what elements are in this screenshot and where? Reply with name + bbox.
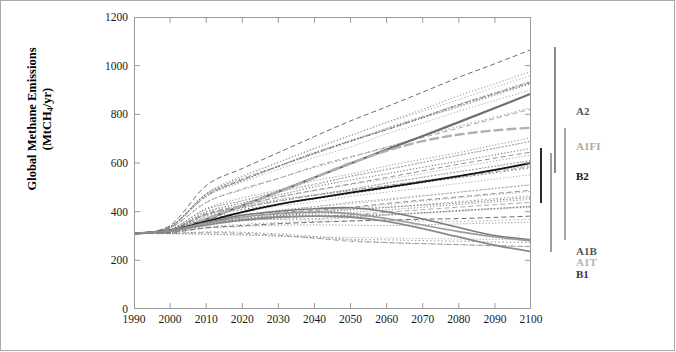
legend-range-bar-a1fi (564, 128, 566, 240)
legend-label-a1fi: A1FI (576, 140, 600, 152)
marker-scenario-line-a1fi (134, 128, 531, 234)
y-axis-label: Global Methane Emissions (MtCH4/yr) (25, 29, 69, 209)
x-axis-tick-labels: 1990200020102020203020402050206020702080… (134, 313, 531, 333)
y-tick-label: 200 (88, 254, 128, 266)
marker-scenario-lines (134, 94, 531, 252)
figure-frame: Global Methane Emissions (MtCH4/yr) 0200… (0, 0, 675, 351)
y-axis-label-line2: (MtCH4/yr) (40, 29, 58, 209)
legend-label-b2: B2 (576, 170, 589, 182)
plot-area (134, 17, 531, 309)
line-chart-svg (134, 17, 531, 309)
legend-label-a1t: A1T (576, 256, 597, 268)
scenario-envelope-lines (134, 50, 531, 247)
legend-range-bar-a2 (554, 47, 556, 172)
y-tick-label: 600 (88, 157, 128, 169)
x-tick-label: 2100 (510, 313, 552, 325)
y-axis-tick-labels: 020040060080010001200 (86, 17, 128, 309)
legend-label-a2: A2 (576, 105, 589, 117)
y-axis-label-line1: Global Methane Emissions (25, 47, 39, 190)
legend-range-bar-b1 (550, 153, 552, 251)
y-tick-label: 800 (88, 108, 128, 120)
y-tick-label: 1000 (88, 60, 128, 72)
legend-label-b1: B1 (576, 268, 589, 280)
plot-frame (135, 18, 531, 309)
y-tick-label: 1200 (88, 11, 128, 23)
legend-range-bar-b2 (540, 148, 542, 202)
scenario-legend: A2A1FIB2A1BA1TB1 (531, 17, 671, 309)
y-tick-label: 400 (88, 206, 128, 218)
